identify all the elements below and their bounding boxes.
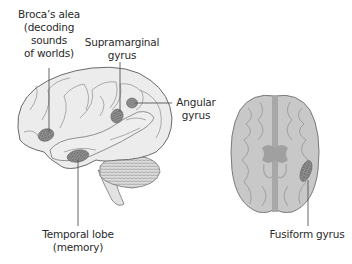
temporal-line-2: (memory) [38,241,118,254]
broca-line-4: of worlds) [10,47,88,60]
axial-brain [231,95,319,212]
broca-line-1: Broca’s alea [10,8,88,21]
fusiform-line-1: Fusiform gyrus [264,228,350,241]
supramarginal-gyrus-label: Supramarginal gyrus [84,36,160,62]
broca-line-3: sounds [10,34,88,47]
temporal-line-1: Temporal lobe [38,228,118,241]
supramarginal-line-2: gyrus [84,49,160,62]
angular-line-1: Angular [172,96,220,109]
fusiform-gyrus-label: Fusiform gyrus [264,228,350,241]
angular-gyrus-label: Angular gyrus [172,96,220,122]
angular-line-2: gyrus [172,109,220,122]
broca-line-2: (decoding [10,21,88,34]
broca-area-label: Broca’s alea (decoding sounds of worlds) [10,8,88,60]
supramarginal-line-1: Supramarginal [84,36,160,49]
temporal-lobe-label: Temporal lobe (memory) [38,228,118,254]
lateral-brain [18,67,172,205]
